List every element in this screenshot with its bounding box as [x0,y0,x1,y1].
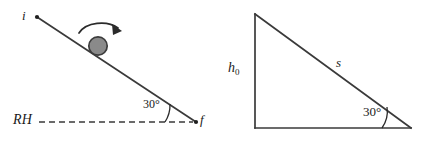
label-triangle-angle: 30° [363,105,381,118]
label-incline-angle: 30° [143,98,160,110]
label-reference-height: RH [13,113,32,127]
label-height-symbol: h [228,60,235,75]
label-slope-length: s [336,56,341,69]
final-point-dot [194,120,198,124]
label-height-subscript: 0 [235,67,240,77]
rotation-arrowhead-icon [112,24,122,35]
label-initial-point: i [22,9,26,22]
incline-angle-arc [165,104,170,122]
label-height: h0 [228,61,240,75]
rolling-ball [89,37,107,55]
physics-diagram: i f RH 30° h0 s 30° [0,0,422,141]
diagram-canvas [0,0,422,141]
label-final-point: f [200,113,204,126]
initial-point-dot [35,15,39,19]
